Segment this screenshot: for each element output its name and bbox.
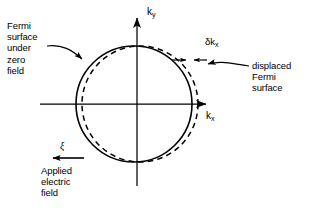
electric-field-symbol: ξ (60, 140, 64, 151)
kx-subscript: x (211, 114, 215, 123)
label-delta-kx: δkx (205, 36, 219, 47)
label-kx-axis: kx (206, 110, 215, 121)
leader-displaced-fermi (208, 62, 249, 66)
fermi-surface-diagram: Fermi surface under zero field displaced… (0, 0, 322, 217)
leader-fermi-zero-field (47, 46, 82, 59)
label-applied-electric-field: Applied electric field (41, 165, 72, 199)
delta-kx-subscript: x (215, 41, 219, 48)
label-fermi-surface-zero-field: Fermi surface under zero field (7, 20, 37, 76)
ky-subscript: y (152, 10, 156, 19)
delta-kx-base: δk (205, 36, 215, 47)
label-ky-axis: ky (147, 6, 156, 17)
label-displaced-fermi-surface: displaced Fermi surface (252, 60, 291, 94)
